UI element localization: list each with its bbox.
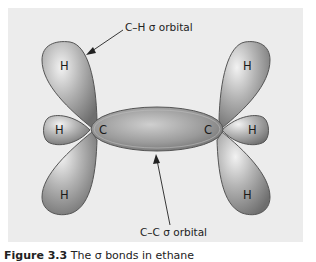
- ch-orbital-top-right: [219, 42, 270, 128]
- atom-c-left: C: [99, 123, 107, 137]
- atom-h-mid-right: H: [248, 123, 257, 137]
- cc-orbital-arrow: [153, 154, 170, 225]
- figure-caption-text: The σ bonds in ethane: [71, 249, 194, 262]
- figure-caption: Figure 3.3 The σ bonds in ethane: [4, 249, 194, 262]
- ch-orbital-bottom-right: [217, 132, 270, 215]
- ch-orbital-label: C–H σ orbital: [125, 21, 193, 33]
- atom-h-bottom-right: H: [243, 188, 252, 202]
- atom-h-top-left: H: [60, 59, 69, 73]
- cc-orbital-label: C–C σ orbital: [140, 226, 207, 238]
- atom-h-top-right: H: [243, 59, 252, 73]
- figure-number: Figure 3.3: [4, 249, 67, 262]
- ch-orbital-bottom-left: [42, 132, 97, 215]
- ch-orbital-arrow: [86, 30, 123, 55]
- atom-h-mid-left: H: [55, 123, 64, 137]
- ch-orbital-top-left: [42, 42, 97, 128]
- atom-h-bottom-left: H: [60, 188, 69, 202]
- atom-c-right: C: [204, 123, 212, 137]
